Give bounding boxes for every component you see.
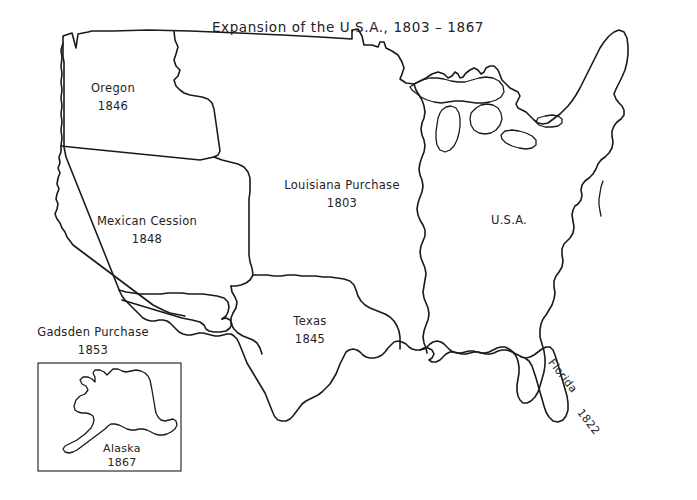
texas-north-border <box>253 275 400 349</box>
label-usa-name: U.S.A. <box>491 213 527 227</box>
label-alaska-name: Alaska <box>103 442 141 455</box>
label-louisiana-purchase-name: Louisiana Purchase <box>284 178 400 192</box>
label-mexican-cession: Mexican Cession 1848 <box>97 214 197 246</box>
louisiana-purchase-east-border <box>414 84 429 353</box>
texas-west-border <box>231 286 262 354</box>
label-gadsden-purchase-year: 1853 <box>78 343 108 357</box>
label-florida: Florida 1822 <box>539 356 609 437</box>
lake-michigan <box>436 106 460 152</box>
label-louisiana-purchase: Louisiana Purchase 1803 <box>284 178 400 210</box>
louisiana-purchase-west-border <box>214 157 253 286</box>
label-texas-name: Texas <box>292 314 326 328</box>
label-mexican-cession-name: Mexican Cession <box>97 214 197 228</box>
label-oregon: Oregon 1846 <box>91 81 135 113</box>
label-florida-name: Florida <box>545 356 580 395</box>
label-mexican-cession-year: 1848 <box>132 232 162 246</box>
lake-ontario <box>536 115 562 127</box>
label-texas-year: 1845 <box>295 332 325 346</box>
alaska-outline <box>63 369 177 453</box>
label-gadsden-purchase: Gadsden Purchase 1853 <box>37 325 149 357</box>
label-gadsden-purchase-name: Gadsden Purchase <box>37 325 149 339</box>
label-oregon-name: Oregon <box>91 81 135 95</box>
map-page: Expansion of the U.S.A., 1803 – 1867 <box>0 0 697 500</box>
label-alaska-year: 1867 <box>107 456 136 469</box>
label-florida-year: 1822 <box>574 406 602 437</box>
label-louisiana-purchase-year: 1803 <box>327 196 357 210</box>
chesapeake-bay <box>599 181 603 216</box>
lake-huron <box>470 104 502 134</box>
label-oregon-year: 1846 <box>98 99 128 113</box>
map-title: Expansion of the U.S.A., 1803 – 1867 <box>212 19 484 35</box>
label-texas: Texas 1845 <box>292 314 326 346</box>
oregon-east-border <box>174 31 220 157</box>
oregon-south-border <box>61 146 214 160</box>
lake-superior <box>410 77 504 103</box>
label-usa: U.S.A. <box>491 213 527 227</box>
expansion-map: Expansion of the U.S.A., 1803 – 1867 <box>0 0 697 500</box>
label-alaska: Alaska 1867 <box>103 442 141 469</box>
lake-erie <box>501 130 536 149</box>
